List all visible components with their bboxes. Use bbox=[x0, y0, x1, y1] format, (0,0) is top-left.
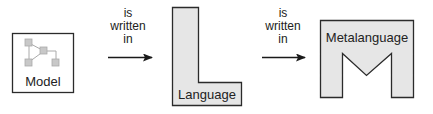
edge-label-line-2: written bbox=[264, 19, 300, 33]
language-node: Language bbox=[173, 8, 242, 106]
metalanguage-node: Metalanguage bbox=[321, 21, 414, 98]
edge-label-line-3: in bbox=[278, 32, 287, 46]
edge-label-line-1: is bbox=[124, 6, 133, 20]
edge-model-to-language: is written in bbox=[108, 6, 152, 58]
diagram-canvas: Model is written in Language is written … bbox=[0, 0, 433, 114]
language-label: Language bbox=[178, 87, 236, 102]
edge-label-line-2: written bbox=[109, 19, 145, 33]
edge-label-line-3: in bbox=[123, 32, 132, 46]
edge-label-line-1: is bbox=[279, 6, 288, 20]
edge-language-to-metalanguage: is written in bbox=[262, 6, 305, 58]
metalanguage-label: Metalanguage bbox=[326, 30, 408, 45]
model-label: Model bbox=[25, 74, 61, 89]
model-node: Model bbox=[13, 34, 74, 93]
